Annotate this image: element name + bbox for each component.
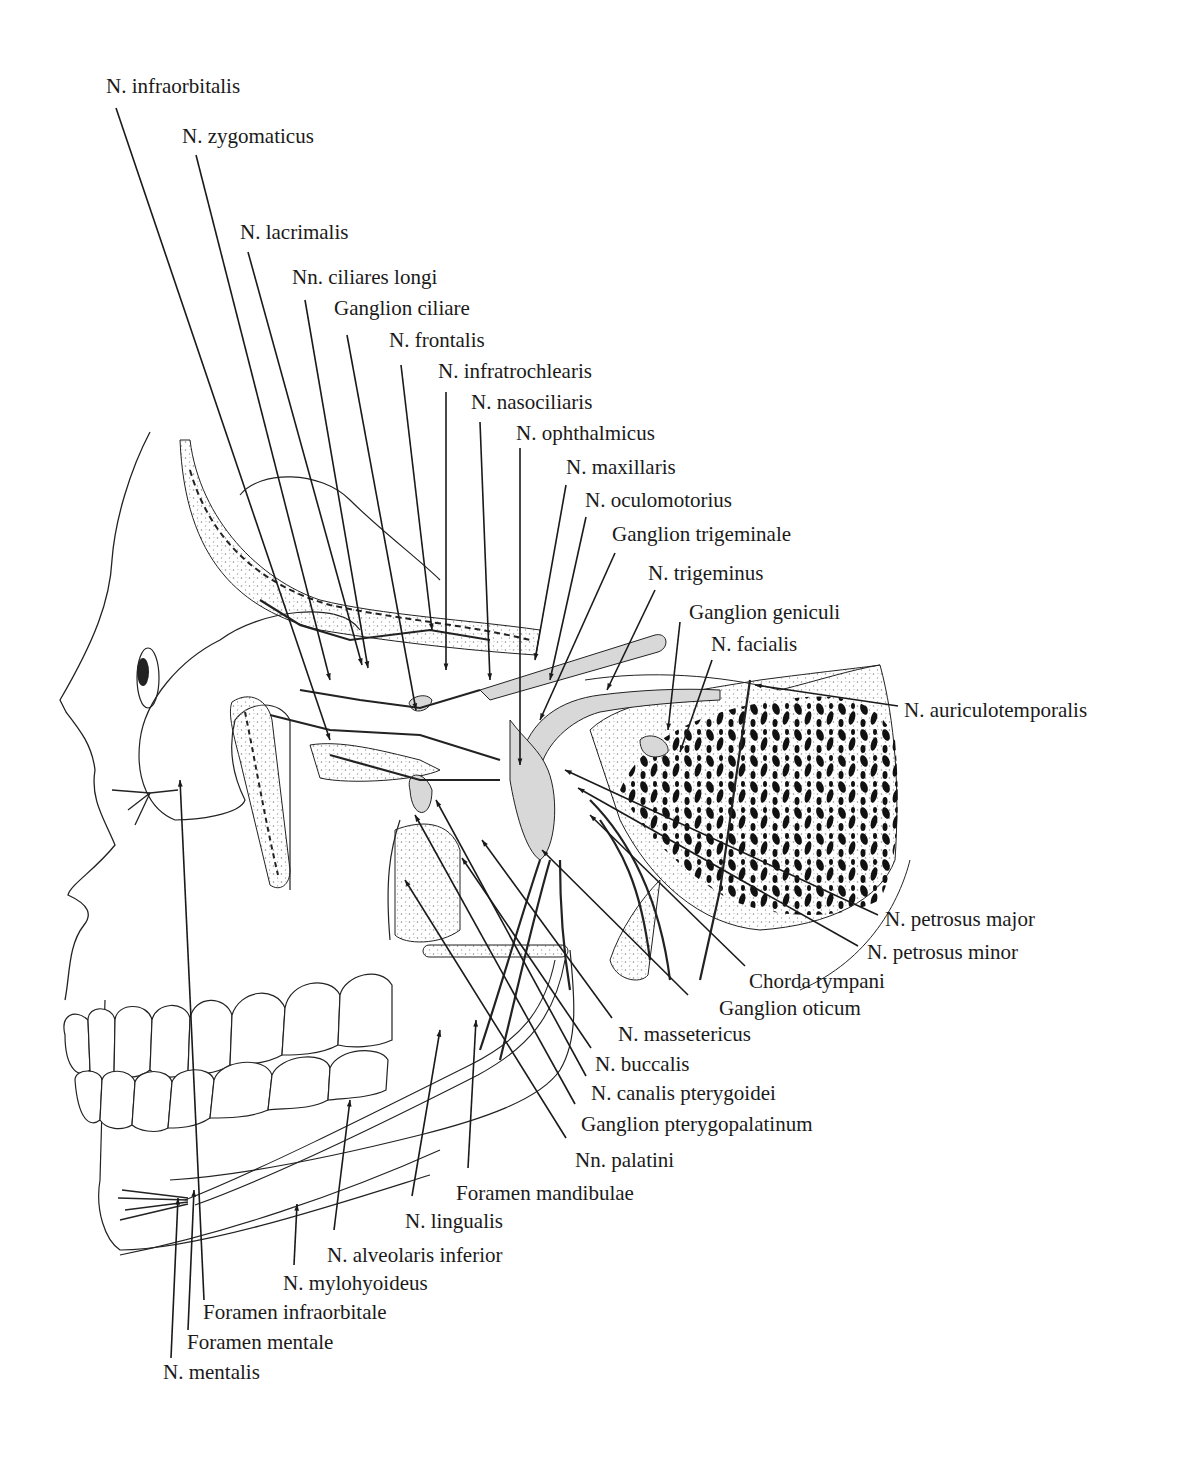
label-foramen-infraorbitale: Foramen infraorbitale (203, 1302, 387, 1323)
label-n-frontalis: N. frontalis (389, 330, 485, 351)
leader-line-foramen-mentale (188, 1190, 194, 1330)
label-n-lacrimalis: N. lacrimalis (240, 222, 348, 243)
leader-line-foramen-mandibulae (468, 1020, 476, 1168)
anatomy-figure: N. infraorbitalis N. zygomaticus N. lacr… (0, 0, 1179, 1459)
leader-line-n-lingualis (412, 1030, 440, 1196)
arrowhead-icon (444, 663, 449, 670)
label-n-canalis-pterygoidei: N. canalis pterygoidei (591, 1083, 776, 1104)
leader-line-n-facialis (680, 660, 712, 752)
label-n-infraorbitalis: N. infraorbitalis (106, 76, 240, 97)
label-n-nasociliaris: N. nasociliaris (471, 392, 592, 413)
label-n-oculomotorius: N. oculomotorius (585, 490, 732, 511)
arrowhead-icon (415, 815, 420, 822)
label-foramen-mentale: Foramen mentale (187, 1332, 333, 1353)
leader-line-n-massetericus (482, 840, 612, 1018)
leader-line-n-petrosus-minor (578, 788, 858, 946)
leader-line-ganglion-oticum (542, 850, 688, 995)
leader-lines (0, 0, 1179, 1459)
arrowhead-icon (326, 673, 331, 680)
label-n-zygomaticus: N. zygomaticus (182, 126, 314, 147)
label-nn-ciliares-longi: Nn. ciliares longi (292, 267, 437, 288)
label-ganglion-oticum: Ganglion oticum (719, 998, 861, 1019)
leader-line-ganglion-ciliare (347, 335, 416, 710)
label-ganglion-pterygopalatinum: Ganglion pterygopalatinum (581, 1114, 813, 1135)
leader-line-n-petrosus-major (565, 770, 878, 915)
label-ganglion-trigeminale: Ganglion trigeminale (612, 524, 791, 545)
label-n-petrosus-major: N. petrosus major (885, 909, 1035, 930)
arrowhead-icon (578, 788, 585, 793)
arrowhead-icon (405, 880, 411, 887)
arrowhead-icon (326, 733, 331, 740)
arrowhead-icon (294, 1204, 299, 1211)
arrowhead-icon (540, 713, 545, 720)
arrowhead-icon (680, 745, 685, 752)
arrowhead-icon (178, 780, 183, 787)
label-n-mentalis: N. mentalis (163, 1362, 260, 1383)
label-n-facialis: N. facialis (711, 634, 797, 655)
label-ganglion-ciliare: Ganglion ciliare (334, 298, 470, 319)
leader-line-ganglion-trigeminale (540, 553, 615, 720)
arrowhead-icon (191, 1190, 196, 1197)
label-nn-palatini: Nn. palatini (575, 1150, 674, 1171)
label-n-infratrochlearis: N. infratrochlearis (438, 361, 592, 382)
label-n-petrosus-minor: N. petrosus minor (867, 942, 1018, 963)
leader-line-n-maxillaris (535, 485, 566, 660)
leader-line-ganglion-geniculi (668, 622, 680, 730)
label-n-trigeminus: N. trigeminus (648, 563, 764, 584)
arrowhead-icon (436, 800, 441, 807)
label-chorda-tympani: Chorda tympani (749, 971, 885, 992)
leader-line-n-auriculotemporalis (755, 685, 898, 706)
leader-line-nn-palatini (405, 880, 566, 1138)
arrowhead-icon (518, 758, 523, 765)
arrowhead-icon (473, 1020, 478, 1027)
arrowhead-icon (487, 673, 492, 680)
leader-line-n-mylohyoideus (294, 1204, 297, 1265)
leader-line-n-nasociliaris (480, 422, 490, 680)
arrowhead-icon (565, 770, 572, 775)
arrowhead-icon (607, 683, 612, 690)
leader-line-n-alveolaris-inferior (334, 1100, 350, 1230)
label-n-auriculotemporalis: N. auriculotemporalis (904, 700, 1087, 721)
leader-line-n-canalis-pterygoidei (436, 800, 586, 1076)
leader-line-n-mentalis (171, 1198, 178, 1358)
label-n-mylohyoideus: N. mylohyoideus (283, 1273, 428, 1294)
label-n-massetericus: N. massetericus (618, 1024, 751, 1045)
leader-line-nn-ciliares-longi (305, 300, 368, 668)
arrowhead-icon (358, 658, 363, 665)
label-foramen-mandibulae: Foramen mandibulae (456, 1183, 634, 1204)
arrowhead-icon (175, 1198, 180, 1205)
label-n-maxillaris: N. maxillaris (566, 457, 676, 478)
label-n-lingualis: N. lingualis (405, 1211, 503, 1232)
leader-line-n-frontalis (401, 365, 432, 630)
leader-line-n-infraorbitalis (116, 108, 330, 740)
label-n-ophthalmicus: N. ophthalmicus (516, 423, 655, 444)
leader-line-n-trigeminus (607, 590, 655, 690)
label-n-alveolaris-inferior: N. alveolaris inferior (327, 1245, 503, 1266)
label-n-buccalis: N. buccalis (595, 1054, 689, 1075)
leader-line-n-buccalis (462, 858, 591, 1048)
label-ganglion-geniculi: Ganglion geniculi (689, 602, 840, 623)
